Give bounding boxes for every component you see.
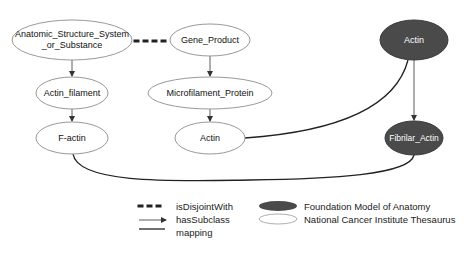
node-actin-filament[interactable]: Actin_filament	[36, 77, 108, 109]
node-fibrilar-actin[interactable]: Fibrilar_Actin	[385, 121, 443, 155]
node-label: Actin	[200, 133, 220, 143]
node-label: Microfilament_Protein	[166, 88, 253, 98]
legend-label-fma: Foundation Model of Anatomy	[304, 201, 430, 212]
legend: isDisjointWith hasSubclass mapping Found…	[139, 201, 456, 238]
legend-nci-ellipse-icon	[259, 214, 297, 224]
edge-mapping-actin-nci-to-actin-fma	[245, 60, 408, 138]
legend-label-hassubclass: hasSubclass	[176, 214, 230, 225]
node-label: Fibrilar_Actin	[389, 133, 439, 143]
node-label: Actin_filament	[44, 88, 101, 98]
node-label: Actin	[404, 35, 424, 45]
ontology-diagram: Anatomic_Structure_System _or_Substance …	[0, 0, 464, 253]
legend-label-nci: National Cancer Institute Thesaurus	[304, 214, 456, 225]
legend-label-isdisjointwith: isDisjointWith	[176, 201, 233, 212]
legend-label-mapping: mapping	[176, 227, 212, 238]
node-label: Gene_Product	[181, 35, 240, 45]
node-label: Anatomic_Structure_System	[15, 29, 129, 39]
node-label: F-actin	[58, 133, 86, 143]
legend-fma-ellipse-icon	[259, 201, 297, 211]
node-label: _or_Substance	[41, 40, 103, 50]
node-anatomic-structure[interactable]: Anatomic_Structure_System _or_Substance	[12, 20, 132, 60]
node-gene-product[interactable]: Gene_Product	[170, 24, 250, 56]
edges	[72, 41, 414, 181]
node-microfilament-protein[interactable]: Microfilament_Protein	[148, 77, 272, 109]
node-actin-nci[interactable]: Actin	[175, 122, 245, 154]
edge-mapping-f-actin-to-fibrilar-actin	[73, 154, 414, 181]
node-f-actin[interactable]: F-actin	[36, 122, 108, 154]
node-actin-fma[interactable]: Actin	[380, 20, 448, 60]
